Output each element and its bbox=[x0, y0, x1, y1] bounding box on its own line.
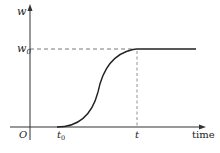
t-label: t bbox=[135, 129, 140, 140]
t0-label: t0 bbox=[57, 129, 65, 142]
x-axis-label: time bbox=[192, 129, 215, 140]
y-axis-arrow-icon bbox=[28, 4, 33, 11]
sigmoid-curve bbox=[57, 49, 196, 127]
origin-label: O bbox=[19, 129, 27, 140]
y-axis-label: w bbox=[17, 5, 27, 18]
sigmoid-diagram: w w0 O t0 t time bbox=[0, 0, 220, 153]
w0-label: w0 bbox=[17, 42, 31, 56]
